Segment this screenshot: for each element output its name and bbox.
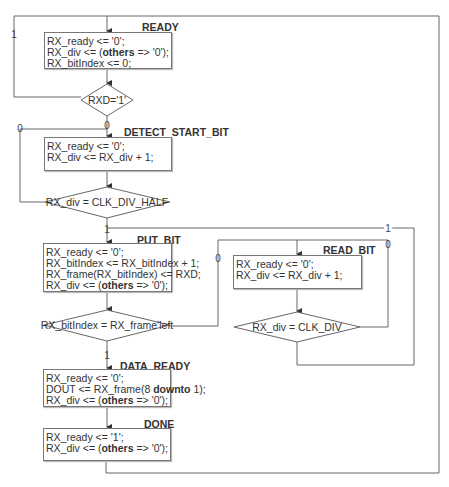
state-box-data-ready: RX_ready <= '0'; DOUT <= RX_frame(8 down…	[43, 369, 171, 407]
decision-clkdiv-condition: RX_div = CLK_DIV	[252, 321, 342, 333]
state-box-done: RX_ready <= '1'; RX_div <= (others => '0…	[43, 428, 171, 461]
action-line: RX_div <= RX_div + 1;	[236, 270, 361, 281]
decision-rxd-condition: RXD='1'	[88, 94, 126, 106]
branch-label-half-false: 0	[17, 123, 23, 134]
action-line: RX_div <= (others => '0');	[46, 395, 170, 406]
branch-label-clkdiv-false: 0	[385, 239, 391, 250]
decision-half-condition: RX_div = CLK_DIV_HALF	[46, 196, 168, 208]
branch-label-bitindex-true: 1	[104, 350, 110, 361]
branch-label-half-true: 1	[104, 224, 110, 235]
decision-bitindex-condition: RX_bitIndex = RX_frame'left	[41, 319, 173, 331]
state-box-put-bit: RX_ready <= '0'; RX_bitIndex <= RX_bitIn…	[43, 243, 172, 292]
branch-label-bitindex-false: 0	[215, 253, 221, 264]
branch-label-rxd-false: 0	[104, 120, 110, 131]
action-line: RX_bitIndex <= 0;	[47, 58, 171, 69]
action-line: RX_div <= (others => '0');	[46, 443, 170, 454]
branch-label-clkdiv-true: 1	[384, 223, 392, 234]
branch-label-rxd-true: 1	[11, 29, 17, 40]
action-line: RX_div <= RX_div + 1;	[47, 152, 171, 163]
state-box-ready: RX_ready <= '0'; RX_div <= (others => '0…	[44, 32, 172, 69]
state-box-read-bit: RX_ready <= '0'; RX_div <= RX_div + 1;	[233, 255, 362, 289]
state-box-detect-start-bit: RX_ready <= '0'; RX_div <= RX_div + 1;	[44, 137, 172, 171]
action-line: RX_div <= (others => '0');	[46, 280, 171, 291]
